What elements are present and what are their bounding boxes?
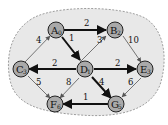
- node-E: E 3: [137, 61, 153, 77]
- node-A-distance: 0: [58, 29, 62, 36]
- node-B: B 2: [107, 22, 123, 38]
- weight-C-F: 5: [36, 77, 41, 87]
- node-B-distance: 2: [117, 29, 121, 36]
- weight-A-B: 2: [84, 18, 89, 28]
- weight-D-F: 8: [66, 77, 71, 87]
- weight-C-A: 4: [36, 35, 41, 45]
- node-C-distance: 3: [23, 68, 27, 75]
- node-F-label: F: [50, 99, 57, 110]
- node-A: A 0: [48, 22, 64, 38]
- shortest-path-graph: 2 1 4 3 10 2 2 5 8 4 6 1 A 0 B 2 C 3 D 1…: [0, 0, 168, 125]
- node-D: D 1: [77, 61, 93, 77]
- node-G: G 5: [108, 96, 124, 112]
- node-C: C 3: [13, 61, 29, 77]
- node-E-distance: 3: [147, 68, 151, 75]
- weight-D-C: 2: [52, 58, 57, 68]
- weight-E-G: 6: [128, 77, 133, 87]
- weight-B-E: 10: [128, 35, 139, 45]
- node-G-distance: 5: [118, 103, 122, 110]
- node-F: F 6: [47, 96, 63, 112]
- weight-D-E: 2: [115, 58, 120, 68]
- node-D-distance: 1: [87, 68, 91, 75]
- weight-A-D: 1: [69, 33, 74, 43]
- node-F-distance: 6: [57, 103, 61, 110]
- weight-G-F: 1: [83, 92, 88, 102]
- weight-D-G: 4: [99, 77, 104, 87]
- weight-D-B: 3: [97, 35, 102, 45]
